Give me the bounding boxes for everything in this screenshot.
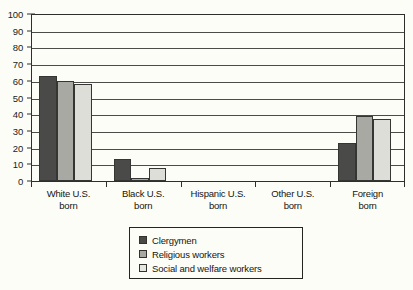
x-axis-label-line: born	[330, 200, 405, 212]
x-axis-category-label: Other U.S.born	[255, 188, 330, 211]
x-axis-tick	[106, 182, 107, 187]
bar	[114, 159, 132, 181]
bar	[356, 116, 374, 181]
bar-group	[330, 14, 405, 181]
y-axis-tick-label: 70	[13, 59, 23, 70]
x-axis-tick	[330, 182, 331, 187]
x-axis-tick	[255, 182, 256, 187]
y-axis-tick-label: 100	[8, 9, 23, 20]
y-axis-tick-label: 80	[13, 42, 23, 53]
legend-swatch-icon	[139, 250, 147, 258]
legend-item: Social and welfare workers	[139, 261, 302, 275]
x-axis-tick	[181, 182, 182, 187]
y-axis-tick-label: 50	[13, 92, 23, 103]
y-axis-tick-label: 0	[18, 176, 23, 187]
bar	[57, 81, 75, 181]
bar	[74, 84, 92, 181]
legend-label: Clergymen	[152, 235, 197, 246]
y-axis-tick-label: 40	[13, 109, 23, 120]
x-axis-category-label: White U.S.born	[31, 188, 106, 211]
x-axis-category-label: Hispanic U.S.born	[181, 188, 256, 211]
y-axis-tick-label: 90	[13, 25, 23, 36]
x-axis-label-line: born	[31, 200, 106, 212]
x-axis-label-line: Hispanic U.S.	[181, 188, 256, 200]
x-axis-label-line: born	[181, 200, 256, 212]
bar	[338, 143, 356, 181]
bar-group	[106, 14, 181, 181]
bar	[373, 119, 391, 181]
x-axis-ticks	[31, 182, 405, 187]
y-axis-tick-label: 10	[13, 159, 23, 170]
x-axis-category-label: Foreignborn	[330, 188, 405, 211]
legend-swatch-icon	[139, 264, 147, 272]
bar-group	[31, 14, 106, 181]
bar	[131, 178, 149, 181]
bar-chart: 0102030405060708090100 White U.S.bornBla…	[0, 0, 413, 290]
x-axis-label-line: born	[106, 200, 181, 212]
legend-item: Religious workers	[139, 247, 302, 261]
x-axis-label-line: born	[255, 200, 330, 212]
x-axis-tick	[31, 182, 32, 187]
bar-group	[181, 14, 256, 181]
y-axis: 0102030405060708090100	[0, 0, 31, 182]
bar	[149, 168, 167, 181]
x-axis-label-line: Black U.S.	[106, 188, 181, 200]
y-axis-tick-label: 60	[13, 75, 23, 86]
legend-swatch-icon	[139, 236, 147, 244]
legend-label: Religious workers	[152, 249, 224, 260]
x-axis-label-line: Foreign	[330, 188, 405, 200]
legend: ClergymenReligious workersSocial and wel…	[129, 227, 303, 279]
legend-item: Clergymen	[139, 233, 302, 247]
x-axis-category-label: Black U.S.born	[106, 188, 181, 211]
bar-group	[255, 14, 330, 181]
y-axis-tick-label: 30	[13, 125, 23, 136]
x-axis-tick	[404, 182, 405, 187]
y-axis-tick-label: 20	[13, 142, 23, 153]
x-axis-label-line: White U.S.	[31, 188, 106, 200]
bar-groups	[31, 14, 405, 181]
legend-label: Social and welfare workers	[152, 263, 262, 274]
x-axis-labels: White U.S.bornBlack U.S.bornHispanic U.S…	[31, 188, 405, 222]
bar	[39, 76, 57, 181]
x-axis-label-line: Other U.S.	[255, 188, 330, 200]
